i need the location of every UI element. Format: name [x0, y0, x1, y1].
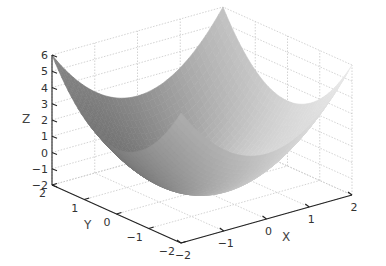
z-axis-label: Z: [22, 112, 30, 126]
y-tick-label: 2: [39, 187, 46, 200]
z-tick-label: 4: [41, 82, 48, 95]
z-tick-label: −1: [32, 163, 48, 176]
x-tick-label: −2: [175, 249, 191, 262]
surface-plot: −2−10123456−2−1012−2−1012 Z Y X: [0, 0, 386, 266]
z-tick-label: 2: [41, 114, 48, 127]
y-tick-label: −1: [127, 231, 143, 244]
x-tick-label: −1: [218, 237, 234, 250]
z-tick-label: 6: [41, 49, 48, 62]
x-tick-label: 0: [265, 225, 272, 238]
y-tick-label: 1: [71, 202, 78, 215]
z-tick-label: 5: [41, 65, 48, 78]
y-tick-label: 0: [104, 216, 111, 229]
z-tick-label: 0: [41, 147, 48, 160]
x-axis-label: X: [282, 230, 290, 244]
y-axis-label: Y: [83, 218, 92, 232]
z-tick-label: 1: [41, 130, 48, 143]
y-tick-label: −2: [159, 245, 175, 258]
x-tick-label: 1: [308, 213, 315, 226]
surface-mesh: [52, 7, 352, 195]
z-tick-label: 3: [41, 98, 48, 111]
x-tick-label: 2: [351, 201, 358, 214]
